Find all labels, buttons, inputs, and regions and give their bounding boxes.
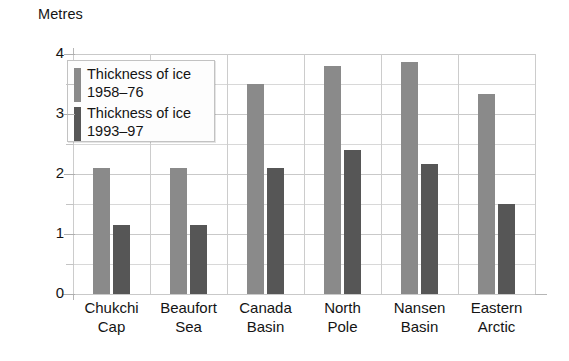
legend-swatch-icon	[74, 68, 81, 102]
bar	[344, 150, 361, 294]
bar	[170, 168, 187, 294]
bar-group	[304, 54, 381, 294]
bar	[247, 84, 264, 294]
y-axis-tick-label: 4	[42, 44, 64, 61]
legend-label: Thickness of ice 1993–97	[87, 105, 191, 140]
x-axis-category-label-line: Nansen	[381, 298, 458, 317]
bar	[324, 66, 341, 294]
legend-label-line: 1993–97	[87, 123, 191, 141]
bar-group	[458, 54, 535, 294]
x-axis-category-label: EasternArctic	[458, 298, 535, 336]
bar-chart: Metres 01234 ChukchiCapBeaufortSeaCanada…	[0, 0, 569, 361]
x-axis-category-label: NansenBasin	[381, 298, 458, 336]
bar	[190, 225, 207, 294]
x-axis-category-labels: ChukchiCapBeaufortSeaCanadaBasinNorthPol…	[73, 298, 535, 356]
y-axis-tick-label: 2	[42, 164, 64, 181]
bar	[93, 168, 110, 294]
y-tick-major	[64, 174, 75, 175]
bar	[478, 94, 495, 294]
legend-label: Thickness of ice 1958–76	[87, 66, 191, 101]
legend-item: Thickness of ice 1993–97	[74, 105, 210, 141]
y-axis-tick-labels: 01234	[38, 54, 64, 294]
y-tick-major	[64, 234, 75, 235]
legend-label-line: Thickness of ice	[87, 66, 191, 84]
y-axis-tick-label: 3	[42, 104, 64, 121]
bar-group	[381, 54, 458, 294]
y-tick-minor	[66, 264, 74, 265]
bar-group	[227, 54, 304, 294]
y-tick-minor	[66, 144, 74, 145]
x-axis-category-label: ChukchiCap	[73, 298, 150, 336]
x-axis-category-label-line: Sea	[150, 317, 227, 336]
legend-label-line: Thickness of ice	[87, 105, 191, 123]
x-axis-category-label-line: Beaufort	[150, 298, 227, 317]
x-axis-category-label-line: Eastern	[458, 298, 535, 317]
x-axis-category-label-line: Basin	[227, 317, 304, 336]
x-axis-category-label-line: Arctic	[458, 317, 535, 336]
y-tick-minor	[66, 84, 74, 85]
x-axis-category-label: BeaufortSea	[150, 298, 227, 336]
x-axis-category-label-line: Pole	[304, 317, 381, 336]
bar	[421, 164, 438, 294]
y-tick-major	[64, 54, 75, 55]
category-separator	[535, 54, 536, 294]
x-axis-category-label-line: Cap	[73, 317, 150, 336]
y-tick-major	[64, 294, 75, 295]
legend-item: Thickness of ice 1958–76	[74, 66, 210, 102]
bar	[401, 62, 418, 294]
bar	[267, 168, 284, 294]
y-axis-title: Metres	[38, 6, 83, 22]
y-axis-tick-label: 1	[42, 224, 64, 241]
x-axis-category-label: CanadaBasin	[227, 298, 304, 336]
y-tick-minor	[66, 204, 74, 205]
x-axis-category-label-line: North	[304, 298, 381, 317]
x-axis-category-label-line: Canada	[227, 298, 304, 317]
y-axis-tick-label: 0	[42, 284, 64, 301]
bar	[498, 204, 515, 294]
bar	[113, 225, 130, 294]
gridline-major	[73, 294, 535, 295]
x-axis-category-label-line: Basin	[381, 317, 458, 336]
x-axis-category-label-line: Chukchi	[73, 298, 150, 317]
x-axis-category-label: NorthPole	[304, 298, 381, 336]
y-tick-major	[64, 114, 75, 115]
legend-label-line: 1958–76	[87, 84, 191, 102]
legend: Thickness of ice 1958–76 Thickness of ic…	[67, 60, 215, 142]
legend-swatch-icon	[74, 107, 81, 141]
